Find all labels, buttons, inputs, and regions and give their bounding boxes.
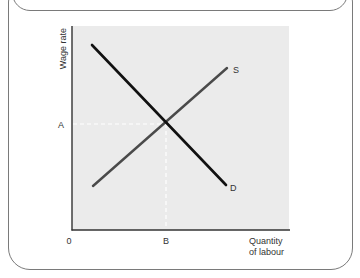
label-a: A: [58, 120, 64, 130]
x-axis-label-line1: Quantity: [249, 236, 283, 246]
demand-label: D: [230, 183, 237, 193]
label-b: B: [163, 236, 169, 246]
y-axis-label: Wage rate: [58, 28, 68, 69]
supply-label: S: [233, 65, 239, 75]
origin-label: 0: [66, 236, 71, 246]
labour-market-chart: Wage rate A 0 B Quantity of labour S D: [0, 0, 360, 278]
x-axis-label-line2: of labour: [249, 247, 284, 257]
